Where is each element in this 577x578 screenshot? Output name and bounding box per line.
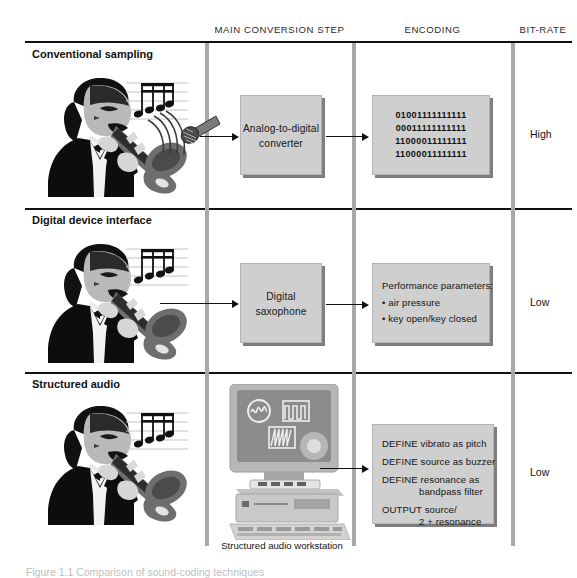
arrow-workstation-to-code xyxy=(320,468,364,469)
performance-parameter-item: • key open/key closed xyxy=(382,311,477,326)
arrow-mic-to-adc xyxy=(200,136,234,137)
column-divider-3 xyxy=(511,43,515,546)
code-line-2: DEFINE source as buzzer xyxy=(382,454,495,469)
arrow-mic-to-adc-head xyxy=(232,133,239,141)
encoding-box-structured-audio-code: DEFINE vibrato as pitch DEFINE source as… xyxy=(372,424,494,524)
arrow-workstation-to-code-head xyxy=(362,465,369,473)
column-header-main-conversion-step: MAIN CONVERSION STEP xyxy=(206,24,353,35)
row-divider-1 xyxy=(25,208,572,210)
arrow-digital-sax-to-params-head xyxy=(362,301,369,309)
column-divider-2 xyxy=(352,43,356,546)
row-title-conventional-sampling: Conventional sampling xyxy=(32,48,153,60)
header-rule xyxy=(25,41,572,43)
row-title-digital-device-interface: Digital device interface xyxy=(32,214,152,226)
music-notes-icon xyxy=(126,408,188,460)
performance-parameters-heading: Performance parameters: xyxy=(382,278,493,293)
column-header-bit-rate: BIT-RATE xyxy=(512,24,574,35)
code-line-1: DEFINE vibrato as pitch xyxy=(382,436,487,451)
microphone-icon xyxy=(146,108,221,170)
bit-rate-value-row-2: Low xyxy=(530,296,549,308)
bitstream-line-3: 11000011111111 xyxy=(373,136,489,148)
bitstream-line-4: 11000011111111 xyxy=(373,149,489,161)
performance-parameter-item: • air pressure xyxy=(382,295,440,310)
bitstream-line-1: 01001111111111 xyxy=(373,110,489,122)
arrow-adc-to-bits-head xyxy=(362,133,369,141)
process-box-digital-saxophone: Digital saxophone xyxy=(240,263,322,343)
code-line-4: bandpass filter xyxy=(419,484,483,499)
row-divider-2 xyxy=(25,372,572,374)
process-box-line-1: Analog-to-digital xyxy=(241,122,321,136)
process-box-line-2: converter xyxy=(241,137,321,151)
code-line-6: 2 + resonance xyxy=(419,514,481,529)
structured-audio-workstation-icon xyxy=(228,384,352,540)
arrow-sax-to-digital-sax-head xyxy=(232,300,239,308)
row-title-structured-audio: Structured audio xyxy=(32,378,120,390)
process-box-analog-to-digital-converter: Analog-to-digital converter xyxy=(240,95,322,175)
arrow-sax-to-digital-sax xyxy=(160,303,234,304)
bit-rate-value-row-3: Low xyxy=(530,466,549,478)
encoding-box-bitstream: 01001111111111 00011111111111 1100001111… xyxy=(372,95,490,175)
arrow-adc-to-bits xyxy=(326,136,364,137)
music-notes-icon xyxy=(126,244,188,296)
arrow-digital-sax-to-params xyxy=(326,304,364,305)
column-header-encoding: ENCODING xyxy=(353,24,512,35)
bitstream-line-2: 00011111111111 xyxy=(373,123,489,135)
encoding-box-performance-parameters: Performance parameters: • air pressure •… xyxy=(372,263,490,343)
bit-rate-value-row-1: High xyxy=(530,128,552,140)
process-box-line-2: saxophone xyxy=(241,305,321,319)
process-box-line-1: Digital xyxy=(241,290,321,304)
figure-caption: Figure 1.1 Comparison of sound-coding te… xyxy=(26,566,566,578)
workstation-caption: Structured audio workstation xyxy=(212,540,352,551)
